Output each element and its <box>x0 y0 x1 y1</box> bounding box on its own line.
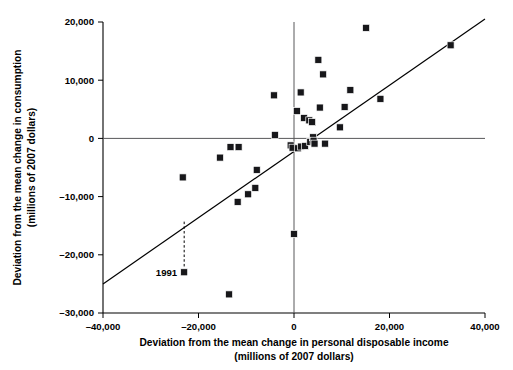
data-point-marker <box>447 42 454 49</box>
data-point-marker <box>227 144 234 151</box>
x-axis-tick-label: –40,000 <box>86 321 121 332</box>
data-point-marker <box>363 24 370 31</box>
data-point-marker <box>347 87 354 94</box>
data-point-marker <box>181 269 188 276</box>
data-point-marker <box>297 89 304 96</box>
data-point-marker <box>179 174 186 181</box>
y-axis-tick-label: 0 <box>89 133 94 144</box>
data-point-marker <box>315 56 322 63</box>
data-point-marker <box>316 104 323 111</box>
y-axis-title: Deviation from the mean change in consum… <box>12 49 23 285</box>
data-point-marker <box>336 124 343 131</box>
data-point-marker <box>270 92 277 99</box>
chart-canvas: 20,00010,0000–10,000–20,000–30,000–40,00… <box>0 0 513 370</box>
data-point-marker <box>341 103 348 110</box>
x-axis-tick-label: 40,000 <box>470 321 499 332</box>
y-axis-tick-label: 20,000 <box>65 16 94 27</box>
data-point-marker <box>226 291 233 298</box>
data-point-marker <box>253 166 260 173</box>
data-points-group <box>179 24 454 298</box>
x-axis-title-units: (millions of 2007 dollars) <box>234 351 353 362</box>
x-axis-tick-label: 20,000 <box>375 321 404 332</box>
data-point-marker <box>245 191 252 198</box>
data-point-marker <box>271 131 278 138</box>
x-axis-tick-label: 0 <box>291 321 296 332</box>
scatter-plot-figure: 20,00010,0000–10,000–20,000–30,000–40,00… <box>0 0 513 370</box>
data-point-marker <box>322 140 329 147</box>
point-annotation-label: 1991 <box>156 267 178 278</box>
y-axis-title-units: (millions of 2007 dollars) <box>26 108 37 227</box>
data-point-marker <box>252 184 259 191</box>
data-point-marker <box>216 154 223 161</box>
x-axis-tick-label: –20,000 <box>181 321 216 332</box>
data-point-marker <box>320 71 327 78</box>
data-point-marker <box>377 95 384 102</box>
y-axis-tick-label: 10,000 <box>65 75 94 86</box>
data-point-marker <box>311 140 318 147</box>
data-point-marker <box>293 108 300 115</box>
point-annotations-group: 1991 <box>156 267 178 278</box>
y-axis-tick-label: –10,000 <box>59 191 94 202</box>
y-axis-tick-label: –30,000 <box>59 307 94 318</box>
x-axis-title: Deviation from the mean change in person… <box>139 337 448 348</box>
y-axis-tick-label: –20,000 <box>59 249 94 260</box>
data-point-marker <box>291 230 298 237</box>
data-point-marker <box>234 198 241 205</box>
data-point-marker <box>309 119 316 126</box>
data-point-marker <box>235 144 242 151</box>
tick-labels-group: 20,00010,0000–10,000–20,000–30,000–40,00… <box>59 16 499 332</box>
